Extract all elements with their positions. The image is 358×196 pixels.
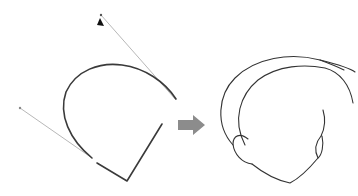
right-arrow-icon [178,115,205,135]
pen-cursor-icon [97,18,104,26]
upper-handle-line[interactable] [101,15,176,100]
bezier-panel [19,14,176,181]
right-ear [316,110,325,158]
head-outline-panel [221,57,355,183]
hair-tip [320,60,344,70]
hair-outer-curve [221,57,355,145]
lower-handle-point[interactable] [19,107,21,109]
main-bezier-curve[interactable] [64,64,176,158]
lower-handle-line[interactable] [20,108,92,158]
face-outline [252,158,318,183]
upper-handle-point[interactable] [100,14,102,16]
hair-inner-curve [239,66,353,145]
anchor-segment[interactable] [97,124,162,181]
illustration-canvas [0,0,358,196]
